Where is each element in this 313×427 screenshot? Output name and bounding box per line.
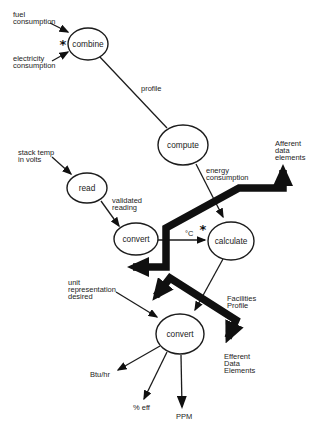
node-label-convert-bottom: convert [166, 329, 194, 339]
afferent-data-elements-label: Afferentdataelements [275, 139, 306, 163]
central-transform-star-combine: * [60, 37, 67, 52]
energy-consumption-label: energyconsumption [206, 166, 249, 182]
node-label-read: read [79, 183, 96, 193]
facilities-profile-label: FacilitiesProfile [227, 294, 256, 310]
efferent-data-elements-label: EfferentDataElements [224, 352, 256, 376]
node-label-calculate: calculate [215, 236, 248, 246]
ppm-label: PPM [176, 412, 192, 421]
flow-unit-representation [116, 292, 157, 317]
stack-temp-label: stack tempin volts [18, 148, 54, 164]
validated-reading-label: validatedreading [112, 196, 142, 212]
unit-representation-label: unitrepresentationdesired [68, 278, 116, 302]
flow-pct-eff [144, 352, 167, 399]
flow-electricity-consumption [52, 52, 68, 61]
deg-c-label: °C [185, 229, 194, 238]
node-label-compute: compute [167, 140, 199, 150]
flow-ppm [181, 355, 182, 407]
dataflow-diagram-page: combine*computereadconvertcalculate*conv… [0, 0, 313, 427]
structured-design-dataflow-diagram: combine*computereadconvertcalculate*conv… [0, 0, 313, 427]
afferent-boundary-arrow [133, 170, 283, 267]
fuel-consumption-label: fuelconsumption [13, 10, 56, 26]
profile-label: profile [141, 84, 161, 93]
node-label-convert-mid: convert [122, 234, 150, 244]
pct-eff-label: % eff [133, 403, 151, 412]
central-transform-star-calculate: * [200, 222, 207, 237]
flow-stack-temp [52, 157, 71, 174]
btu-per-hr-label: Btu/hr [90, 370, 111, 379]
electricity-consumption-label: electricityconsumption [13, 54, 56, 70]
flow-btu-per-hr [118, 346, 160, 370]
node-label-combine: combine [72, 39, 104, 49]
